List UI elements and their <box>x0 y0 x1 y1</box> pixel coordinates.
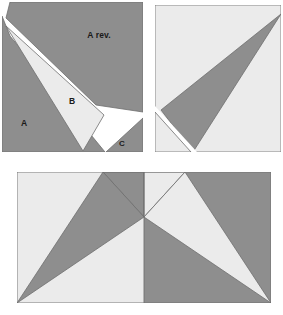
quilt-diagram-canvas: A A rev. B C <box>0 0 283 315</box>
piece-label-a-rev: A rev. <box>87 30 110 40</box>
piece-label-a: A <box>21 118 27 128</box>
block-finished-group <box>17 172 271 303</box>
piece-label-b: B <box>69 96 75 106</box>
piece-label-c: C <box>119 139 125 148</box>
block-assembled-group <box>155 5 281 152</box>
block-pieces-group <box>2 2 143 152</box>
